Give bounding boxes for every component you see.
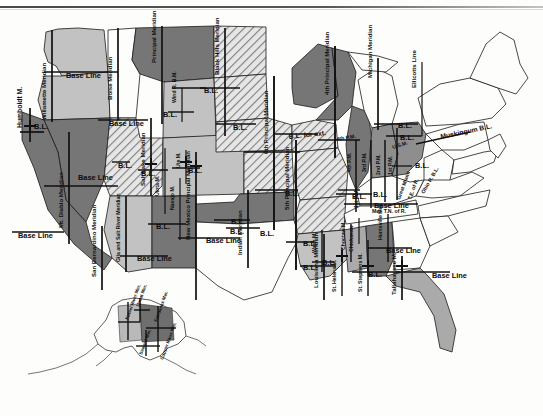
region-south-dakota (214, 74, 268, 122)
meridian-label-third-pm: 3rd P.M. (361, 152, 367, 172)
region-minnesota (292, 44, 338, 108)
bl-abbrev-bl-texasn: B.L. (260, 229, 274, 238)
base-line-label-bl-florida: Base Line (432, 271, 467, 280)
meridian-label-san-bernardino: San Bernardino Meridian (90, 205, 97, 277)
meridian-label-tallahassee: Tallahassee M. (390, 252, 397, 295)
meridian-label-st-stephens: St. Stephens M. (357, 253, 363, 292)
map-canvas: Humboldt M.Willamette MeridianMt. Diablo… (0, 0, 543, 416)
bl-abbrev-bl-indiana: B.L. (415, 161, 429, 170)
meridian-label-second-pm: 2nd P.M. (375, 154, 381, 175)
bl-abbrev-bl-kansas: B.L. (285, 189, 299, 198)
meridian-label-michigan: Michigan Meridian (366, 25, 373, 78)
alaska-aleutians (28, 344, 112, 374)
bl-abbrev-bl-wyoming: B.L. (163, 110, 177, 119)
region-missouri (294, 148, 348, 200)
base-line-label-bl-newmexico: Base Line (206, 236, 241, 245)
bl-abbrev-bl-blackhills: B.L. (204, 86, 218, 95)
bl-abbrev-bl-uinta: B.L. (188, 166, 202, 175)
map-body: Humboldt M.Willamette MeridianMt. Diablo… (12, 10, 528, 374)
meridian-label-uinta: Uinta M. (154, 175, 160, 196)
base-line-label-bl-nevada: Base Line (78, 173, 113, 182)
meridian-label-gila-salt-river: Gila and Salt River Meridian (115, 193, 121, 262)
bl-abbrev-bl-stephens: B.L. (368, 270, 382, 279)
meridian-label-ute: Ute M. (175, 152, 181, 168)
region-washington (44, 28, 108, 76)
meridian-label-choctaw: Choctaw M. (340, 221, 346, 250)
region-nebraska (216, 118, 292, 152)
meridian-label-mt-diablo: Mt. Diablo Meridian (57, 172, 64, 228)
base-line-label-bl-mississippi: Base Line (374, 201, 409, 210)
meridian-label-willamette: Willamette Meridian (40, 63, 47, 120)
bl-abbrev-bl-utah-w: B.L. (118, 161, 132, 170)
alaska-inset-group (28, 298, 206, 374)
meridian-label-new-mexico: New Mexico Principal Meridian (184, 151, 191, 240)
base-line-label-bl-alabama: Base Line (386, 246, 421, 255)
region-oklahoma (196, 192, 294, 224)
meridian-label-humboldt: Humboldt M. (16, 87, 23, 128)
meridian-label-principal: Principal Meridian (150, 10, 157, 63)
bl-abbrev-bl-ohio2: B.L. (400, 133, 414, 142)
bl-abbrev-bl-tn: B.L. (373, 190, 387, 199)
region-north-dakota (214, 26, 266, 78)
base-line-label-bl-arizona: Base Line (137, 254, 172, 263)
meridian-label-boise: Boise Meridian (106, 56, 113, 100)
bl-abbrev-bl-wash-m: B.L. (322, 258, 336, 267)
meridian-label-fourth-pm: 4th P.M. (346, 152, 352, 172)
region-michigan-upper (348, 52, 398, 72)
bl-abbrev-bl-ohio1: B.L. (398, 121, 412, 130)
bl-abbrev-bl-illinois: B.L. (352, 192, 366, 201)
bl-abbrev-bl-colorado: B.L. (231, 217, 245, 226)
meridian-label-chickasaw: Chickasaw (348, 224, 354, 252)
bl-abbrev-bl-humboldt: B.L. (34, 122, 48, 131)
meridian-label-sixth-principal: 6th Principal Meridian (262, 90, 269, 154)
meridian-label-wind-river: Wind R. B.M. (171, 71, 177, 103)
meridian-label-black-hills: Black Hills Meridian (213, 17, 220, 75)
base-line-label-bl-idaho: Base Line (109, 119, 144, 128)
bl-abbrev-bl-sd: B.L. (233, 123, 247, 132)
bl-abbrev-bl-navajo: B.L. (156, 222, 170, 231)
meridian-label-fifth-principal: 5th Principal Meridian (283, 146, 290, 210)
base-line-label-bl-washington: Base Line (66, 71, 101, 80)
meridian-label-ellicotts-line: Ellicotts Line (410, 49, 417, 88)
region-maryland (452, 150, 498, 174)
meridian-label-fourth-principal: 4th Principal Meridian (323, 31, 330, 95)
base-line-label-bl-california: Base Line (18, 231, 53, 240)
region-arkansas (294, 196, 346, 234)
meridian-label-first-pm: 1st P.M. (387, 156, 393, 175)
bl-abbrev-bl-saltlake: B.L. (141, 169, 155, 178)
us-plss-map-svg: Humboldt M.Willamette MeridianMt. Diablo… (0, 0, 543, 416)
bl-abbrev-bl-louisiana: B.L. (303, 263, 317, 272)
bl-abbrev-bl-oklahoma: B.L. (230, 227, 244, 236)
bl-abbrev-bl-arkansas: B.L. (303, 239, 317, 248)
meridian-label-navajo: Navajo M. (169, 185, 175, 210)
